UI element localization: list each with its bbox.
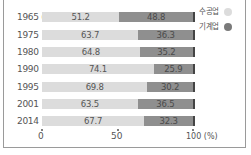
- legend-label-b: 기계업: [199, 22, 219, 32]
- stacked-bar: 51.248.8: [42, 12, 195, 22]
- bar-end-cap: [193, 47, 195, 57]
- bar-segment-b: 30.2: [147, 82, 193, 92]
- stacked-bar: 67.732.3: [42, 116, 195, 126]
- bar-end-cap: [193, 82, 195, 92]
- value-label-a: 64.8: [42, 47, 140, 57]
- bar-end-cap: [193, 30, 195, 40]
- bar-segment-b: 36.5: [138, 99, 193, 109]
- value-label-a: 63.5: [42, 99, 138, 109]
- year-label: 1990: [17, 64, 39, 75]
- legend-item-b: 기계업: [199, 22, 239, 32]
- bar-end-cap: [193, 116, 195, 126]
- bar-end-cap: [193, 99, 195, 109]
- bar-segment-a: 74.1: [42, 64, 154, 74]
- bar-end-cap: [193, 12, 195, 22]
- bar-segment-b: 48.8: [119, 12, 193, 22]
- bar-segment-b: 32.3: [144, 116, 193, 126]
- value-label-a: 74.1: [42, 64, 154, 74]
- value-label-b: 36.3: [138, 30, 193, 40]
- x-tick-0: 0: [38, 131, 44, 142]
- year-label: 1995: [17, 82, 39, 93]
- value-label-b: 48.8: [119, 12, 193, 22]
- legend-label-a: 수공업: [199, 7, 219, 17]
- bar-segment-a: 67.7: [42, 116, 144, 126]
- value-label-b: 25.9: [154, 64, 193, 74]
- x-tick-50: 50: [111, 131, 122, 142]
- year-label: 1980: [17, 47, 39, 58]
- value-label-b: 36.5: [138, 99, 193, 109]
- value-label-a: 67.7: [42, 116, 144, 126]
- stacked-bar: 74.125.9: [42, 64, 195, 74]
- bar-segment-b: 36.3: [138, 30, 193, 40]
- value-label-a: 63.7: [42, 30, 138, 40]
- legend-item-a: 수공업: [199, 7, 239, 17]
- value-label-b: 35.2: [140, 47, 193, 57]
- stacked-bar: 69.830.2: [42, 82, 195, 92]
- stacked-bar: 63.736.3: [42, 30, 195, 40]
- stacked-bar: 64.835.2: [42, 47, 195, 57]
- year-label: 2001: [17, 99, 39, 110]
- value-label-a: 51.2: [42, 12, 119, 22]
- bar-segment-a: 69.8: [42, 82, 147, 92]
- stacked-bar: 63.536.5: [42, 99, 195, 109]
- legend-swatch-light-icon: [224, 8, 232, 16]
- bar-segment-a: 51.2: [42, 12, 119, 22]
- bar-segment-b: 25.9: [154, 64, 193, 74]
- value-label-b: 30.2: [147, 82, 193, 92]
- bar-segment-a: 63.7: [42, 30, 138, 40]
- bar-segment-b: 35.2: [140, 47, 193, 57]
- bar-end-cap: [193, 64, 195, 74]
- value-label-a: 69.8: [42, 82, 147, 92]
- bar-segment-a: 64.8: [42, 47, 140, 57]
- year-label: 1975: [17, 30, 39, 41]
- year-label: 2014: [17, 116, 39, 127]
- bar-segment-a: 63.5: [42, 99, 138, 109]
- value-label-b: 32.3: [144, 116, 193, 126]
- legend-swatch-dark-icon: [224, 23, 232, 31]
- x-tick-100: 100 (%): [186, 131, 218, 142]
